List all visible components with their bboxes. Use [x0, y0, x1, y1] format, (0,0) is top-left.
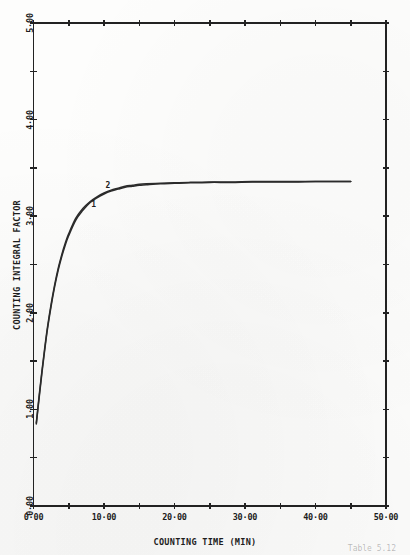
y-tick-label: 1·00 [25, 400, 35, 420]
y-axis-title: COUNTING INTEGRAL FACTOR [12, 199, 22, 329]
data-curve-1 [36, 181, 350, 424]
y-tick-label: 2·00 [25, 303, 35, 323]
plot-area [0, 0, 410, 555]
data-curve-2 [36, 181, 350, 423]
curve-label-1: 1 [91, 200, 96, 209]
x-tick-label: 10·00 [92, 512, 117, 522]
curve-label-2: 2 [105, 181, 110, 190]
x-tick-label: 20·00 [162, 512, 187, 522]
y-tick-label: 5·00 [25, 13, 35, 33]
y-tick-label: 4·00 [25, 110, 35, 130]
x-tick-label: 40·00 [303, 512, 328, 522]
ticks-group [30, 20, 389, 509]
y-tick-label: 0·00 [25, 496, 35, 516]
curves-group [36, 181, 350, 424]
y-tick-label: 3·00 [25, 206, 35, 226]
figure-canvas: 0·0010·0020·0030·0040·0050·000·001·002·0… [0, 0, 410, 555]
axes-group [34, 23, 387, 506]
x-tick-label: 30·00 [233, 512, 258, 522]
x-tick-label: 50·00 [374, 512, 399, 522]
page-caption-artifact: Table 5.12 [0, 544, 410, 555]
